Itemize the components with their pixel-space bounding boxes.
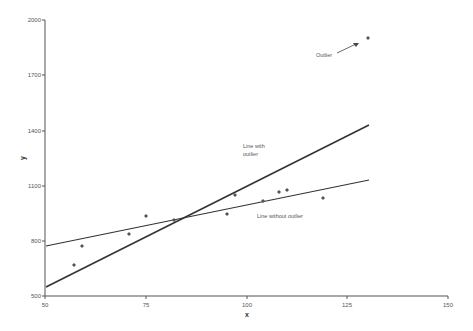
- y-axis: 2000 1700 1400 1100 800 500 y: [19, 17, 45, 299]
- x-tick-50: 50: [42, 302, 49, 308]
- data-points: [72, 36, 370, 267]
- line-with-outlier: [46, 125, 369, 287]
- data-point: [127, 232, 131, 236]
- data-point: [80, 244, 84, 248]
- scatter-chart: 2000 1700 1400 1100 800 500 y 50 75 100 …: [0, 0, 473, 331]
- data-point: [321, 196, 325, 200]
- y-tick-800: 800: [31, 238, 42, 244]
- line-without-outlier: [46, 180, 369, 246]
- x-axis-title: x: [245, 311, 249, 318]
- x-tick-100: 100: [242, 302, 253, 308]
- data-point: [285, 188, 289, 192]
- x-tick-75: 75: [143, 302, 150, 308]
- data-point: [225, 212, 229, 216]
- line-with-outlier-label-2: outlier: [243, 151, 258, 157]
- data-point: [144, 214, 148, 218]
- x-axis: 50 75 100 125 150 x: [42, 296, 454, 318]
- y-axis-title: y: [19, 156, 27, 160]
- y-tick-1400: 1400: [28, 128, 42, 134]
- outlier-arrow: [337, 44, 356, 53]
- y-tick-500: 500: [31, 293, 42, 299]
- y-tick-1100: 1100: [28, 183, 42, 189]
- y-tick-1700: 1700: [28, 72, 42, 78]
- x-tick-150: 150: [443, 302, 454, 308]
- outlier-point: [366, 36, 370, 40]
- x-tick-125: 125: [342, 302, 353, 308]
- outlier-label: Outlier: [316, 52, 332, 58]
- data-point: [277, 190, 281, 194]
- line-with-outlier-label-1: Line with: [243, 143, 265, 149]
- data-point: [72, 263, 76, 267]
- line-without-outlier-label: Line without outlier: [257, 213, 303, 219]
- y-tick-2000: 2000: [28, 17, 42, 23]
